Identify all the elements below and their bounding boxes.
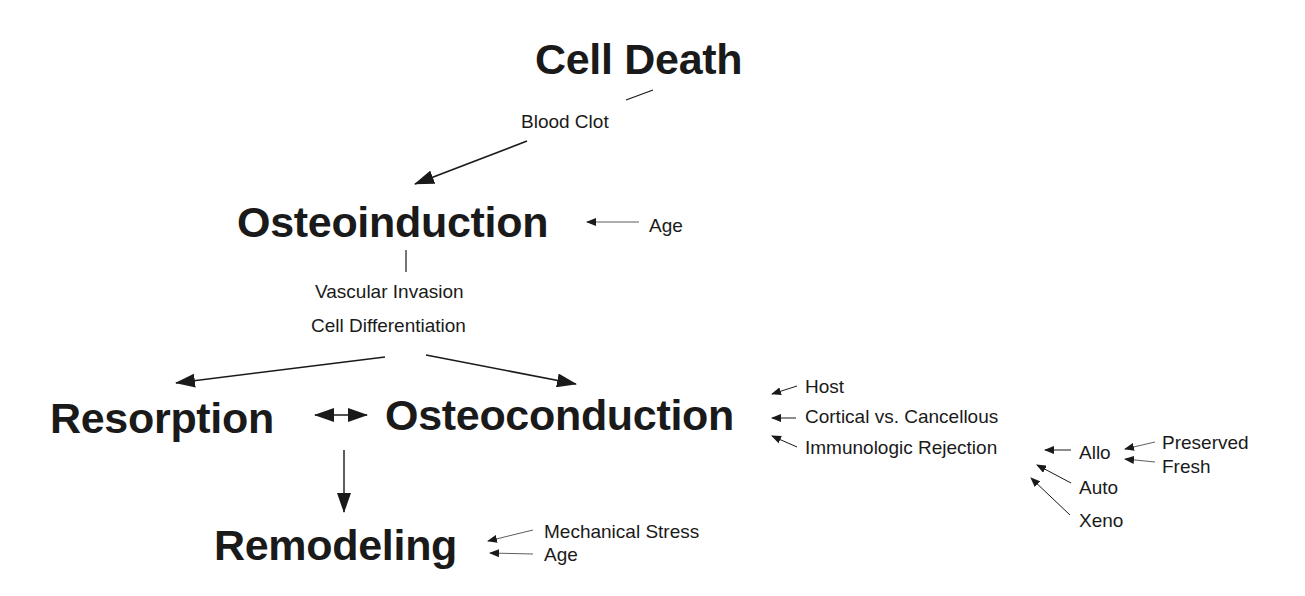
label-age-remodeling: Age xyxy=(544,545,578,564)
edge-preserved-allo xyxy=(1125,442,1155,449)
edge-mechstress-remodeling xyxy=(488,530,533,541)
edge-age-remodeling xyxy=(490,553,533,554)
edge-to-osteoconduction xyxy=(426,355,576,384)
label-vascular-invasion: Vascular Invasion xyxy=(315,282,464,301)
edge-bloodclot-osteoinduction xyxy=(415,141,527,184)
edge-host-osteoconduction xyxy=(772,386,797,394)
label-auto: Auto xyxy=(1079,478,1118,497)
label-allo: Allo xyxy=(1079,443,1111,462)
edge-immunologic-osteoconduction xyxy=(772,436,797,447)
edge-xeno-immunologic xyxy=(1031,478,1070,515)
edge-to-resorption xyxy=(176,357,385,383)
label-blood-clot: Blood Clot xyxy=(521,112,609,131)
label-xeno: Xeno xyxy=(1079,511,1123,530)
label-host: Host xyxy=(805,377,844,396)
node-osteoconduction: Osteoconduction xyxy=(385,394,734,437)
label-fresh: Fresh xyxy=(1162,457,1211,476)
edge-auto-immunologic xyxy=(1037,465,1071,483)
diagram-canvas: Cell Death Osteoinduction Resorption Ost… xyxy=(0,0,1305,596)
node-resorption: Resorption xyxy=(50,397,274,440)
label-immunologic-rejection: Immunologic Rejection xyxy=(805,438,997,457)
edge-celldeath-bloodclot xyxy=(626,90,653,100)
label-preserved: Preserved xyxy=(1162,433,1249,452)
label-cell-differentiation: Cell Differentiation xyxy=(311,316,466,335)
label-cortical-vs-cancellous: Cortical vs. Cancellous xyxy=(805,407,998,426)
node-cell-death: Cell Death xyxy=(535,38,742,81)
label-age-osteoinduction: Age xyxy=(649,216,683,235)
node-remodeling: Remodeling xyxy=(214,524,457,567)
node-osteoinduction: Osteoinduction xyxy=(237,201,548,244)
edge-layer xyxy=(0,0,1305,596)
edge-fresh-allo xyxy=(1125,459,1155,462)
label-mechanical-stress: Mechanical Stress xyxy=(544,522,699,541)
